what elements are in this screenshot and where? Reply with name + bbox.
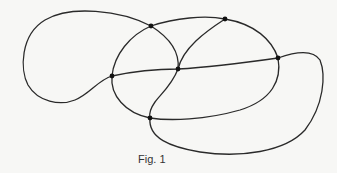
arc-n2-n4: [178, 19, 225, 69]
arc-n4-n6: [150, 69, 178, 118]
graph-node: [223, 17, 228, 22]
graph-node: [148, 116, 153, 121]
graph-node: [110, 74, 115, 79]
arc-n1-n4: [151, 26, 178, 69]
graph-node: [276, 56, 281, 61]
graph-node: [149, 24, 154, 29]
right-loop-curve: [150, 53, 323, 155]
chord-n3-n5: [112, 58, 278, 76]
graph-node: [176, 67, 181, 72]
figure-caption: Fig. 1: [138, 153, 166, 165]
left-loop-curve: [23, 11, 151, 103]
graph-diagram: [0, 0, 337, 173]
